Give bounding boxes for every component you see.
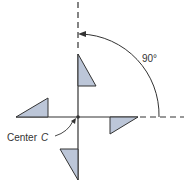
arrowhead-icon [78,31,86,37]
rotation-arc [81,34,159,117]
left-triangle [16,98,48,117]
center-point [76,115,80,119]
center-variable: C [41,132,48,143]
center-label: CenterC [7,132,48,143]
diagram-graphic [0,0,194,192]
bottom-triangle [60,149,78,180]
right-triangle [110,117,138,134]
top-triangle [78,54,96,86]
angle-label: 90° [142,53,157,64]
center-label-text: Center [7,132,37,143]
rotation-diagram: 90° CenterC [0,0,194,192]
center-leader-line [55,121,73,136]
